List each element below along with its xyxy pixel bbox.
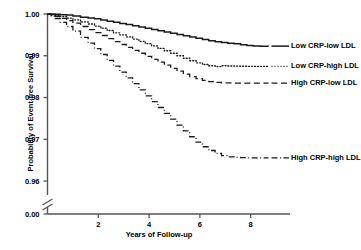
- y-tick-label-zero: 0.00: [16, 210, 40, 219]
- survival-curve-0: [48, 14, 269, 46]
- survival-curve-3: [48, 14, 269, 158]
- series-label-3: High CRP-high LDL: [291, 153, 361, 162]
- x-tick-label: 6: [192, 220, 208, 229]
- x-tick-label: 8: [243, 220, 259, 229]
- x-tick-label: 4: [141, 220, 157, 229]
- x-axis-title: Years of Follow-up: [47, 230, 271, 239]
- series-label-2: High CRP-low LDL: [291, 78, 357, 87]
- axis-ticks-group: [44, 14, 251, 218]
- y-axis-title: Probability of Event-free Survival: [26, 28, 35, 198]
- series-label-0: Low CRP-low LDL: [291, 41, 356, 50]
- survival-curves-group: [48, 14, 290, 158]
- plot-canvas: [0, 0, 361, 250]
- y-tick-label: 1.00: [16, 10, 40, 19]
- series-label-1: Low CRP-high LDL: [291, 61, 359, 70]
- survival-chart-figure: 1.000.990.980.970.960.00 2468 Low CRP-lo…: [0, 0, 361, 250]
- x-tick-label: 2: [90, 220, 106, 229]
